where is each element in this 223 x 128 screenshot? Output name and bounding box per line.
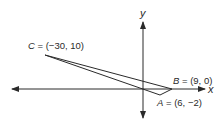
point-c-label: C = (−30, 10) [28,40,84,51]
point-c-coords: = (−30, 10) [35,40,84,51]
coordinate-plane: y x C = (−30, 10) B = (9, 0) A = (6, −2) [0,0,223,128]
point-a-coords: = (6, −2) [163,97,202,108]
y-axis-label: y [139,7,147,19]
point-b-label: B = (9, 0) [173,75,212,86]
point-a-name: A [156,97,163,108]
point-b-coords: = (9, 0) [179,75,212,86]
point-a-label: A = (6, −2) [156,97,202,108]
